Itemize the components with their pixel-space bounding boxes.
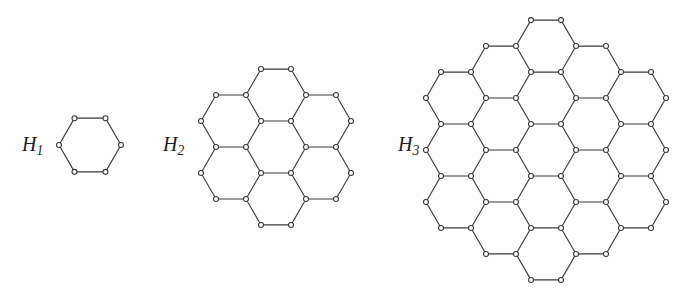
hex-vertex: [72, 169, 77, 174]
hex-vertex: [214, 145, 219, 150]
hex-vertex: [424, 199, 429, 204]
hex-edge: [561, 254, 576, 280]
hex-vertex: [304, 93, 309, 98]
hex-edge: [291, 147, 306, 173]
hex-vertex: [664, 148, 669, 153]
hex-vertex: [604, 148, 609, 153]
hex-vertex: [649, 122, 654, 127]
hex-vertex: [214, 196, 219, 201]
panel-label-h2: H2: [163, 133, 184, 159]
hex-vertex: [289, 170, 294, 175]
hex-edge: [516, 124, 531, 150]
hex-vertex: [439, 173, 444, 178]
hex-edge: [516, 254, 531, 280]
hex-vertex: [72, 116, 77, 121]
hex-edge: [291, 95, 306, 121]
hex-vertex: [199, 170, 204, 175]
hex-edge: [426, 202, 441, 228]
hex-edge: [561, 20, 576, 46]
hex-vertex: [289, 67, 294, 72]
hex-edge: [291, 69, 306, 95]
hex-vertex: [484, 96, 489, 101]
hex-vertex: [619, 173, 624, 178]
hex-vertex: [529, 225, 534, 230]
hex-vertex: [664, 199, 669, 204]
label-base: H: [22, 133, 36, 155]
label-base: H: [163, 133, 177, 155]
hex-edge: [201, 173, 216, 199]
hex-vertex: [619, 122, 624, 127]
lattice-edges: [426, 20, 666, 280]
hex-edge: [471, 124, 486, 150]
hex-edge: [291, 173, 306, 199]
hex-edge: [606, 98, 621, 124]
hexagonal-lattice-figure: H1 H2 H3: [0, 0, 687, 295]
hex-vertex: [469, 225, 474, 230]
hex-vertex: [514, 199, 519, 204]
hex-edge: [516, 20, 531, 46]
hex-vertex: [514, 251, 519, 256]
hex-edge: [106, 145, 122, 172]
hex-vertex: [604, 199, 609, 204]
hex-edge: [606, 150, 621, 176]
hex-edge: [561, 176, 576, 202]
hex-edge: [516, 98, 531, 124]
hex-edge: [471, 150, 486, 176]
hex-edge: [471, 98, 486, 124]
hex-edge: [291, 121, 306, 147]
hex-edge: [59, 118, 75, 145]
panel-label-h3: H3: [398, 133, 419, 159]
lattice-edges: [59, 118, 121, 172]
hex-vertex: [469, 70, 474, 75]
hex-vertex: [559, 173, 564, 178]
hex-vertex: [259, 67, 264, 72]
hex-edge: [516, 46, 531, 72]
hex-vertex: [244, 196, 249, 201]
hex-edge: [471, 228, 486, 254]
hex-vertex: [334, 196, 339, 201]
hex-vertex: [349, 119, 354, 124]
hex-edge: [291, 199, 306, 225]
hex-vertex: [334, 145, 339, 150]
hex-edge: [606, 228, 621, 254]
hex-vertex: [469, 122, 474, 127]
hex-edge: [246, 147, 261, 173]
hex-edge: [651, 150, 666, 176]
hex-vertex: [259, 170, 264, 175]
hex-vertex: [619, 225, 624, 230]
hex-edge: [426, 176, 441, 202]
hex-vertex: [199, 119, 204, 124]
hex-edge: [606, 176, 621, 202]
hex-vertex: [439, 122, 444, 127]
hex-vertex: [103, 116, 108, 121]
hex-edge: [516, 228, 531, 254]
hex-edge: [606, 202, 621, 228]
hex-vertex: [559, 225, 564, 230]
hex-edge: [561, 46, 576, 72]
hex-vertex: [574, 44, 579, 49]
hex-edge: [651, 72, 666, 98]
hex-edge: [561, 72, 576, 98]
hex-edge: [516, 202, 531, 228]
hex-vertex: [424, 148, 429, 153]
hex-edge: [651, 124, 666, 150]
hex-vertex: [244, 145, 249, 150]
hex-edge: [606, 46, 621, 72]
hex-edge: [426, 72, 441, 98]
hex-vertex: [439, 225, 444, 230]
hex-edge: [561, 124, 576, 150]
hex-vertex: [514, 96, 519, 101]
hex-edge: [426, 124, 441, 150]
hex-edge: [516, 176, 531, 202]
hex-edge: [201, 147, 216, 173]
hex-vertex: [619, 70, 624, 75]
hex-vertex: [484, 251, 489, 256]
hex-vertex: [559, 70, 564, 75]
hex-edge: [246, 69, 261, 95]
hex-edge: [426, 150, 441, 176]
hex-vertex: [439, 70, 444, 75]
lattice-vertices: [424, 18, 669, 283]
hex-edge: [246, 95, 261, 121]
lattice-h1: [57, 116, 124, 175]
hex-vertex: [289, 119, 294, 124]
